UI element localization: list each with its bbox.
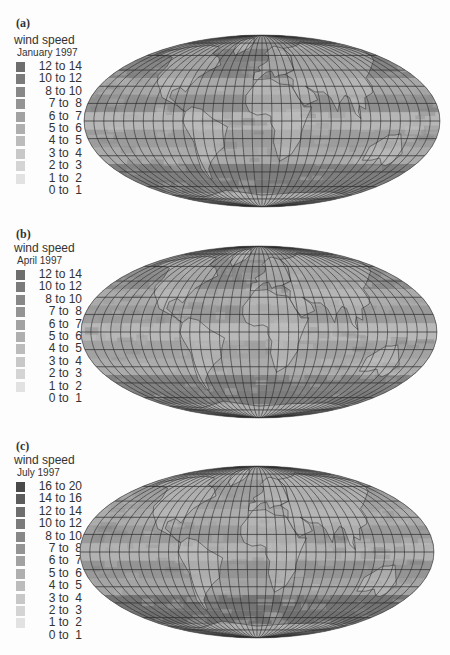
map-surface <box>81 246 447 424</box>
map-april <box>0 212 450 424</box>
map-surface <box>80 466 448 643</box>
map-surface <box>84 35 448 212</box>
map-july <box>0 424 450 655</box>
map-january <box>0 0 450 212</box>
panel-c: (c) wind speed July 1997 16 to 2014 to 1… <box>0 424 450 655</box>
panel-a: (a) wind speed January 1997 12 to 1410 t… <box>0 0 450 212</box>
panel-b: (b) wind speed April 1997 12 to 1410 to … <box>0 212 450 424</box>
